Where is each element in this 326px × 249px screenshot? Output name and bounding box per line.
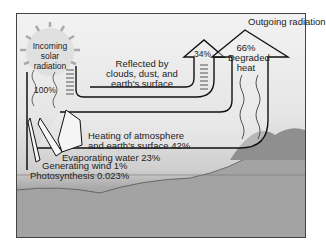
incoming-label: Incomingsolarradiation <box>28 41 72 71</box>
heating-label: Heating of atmosphereand earth's surface… <box>88 131 190 151</box>
incoming-percent: 100% <box>34 85 56 95</box>
photosynthesis-label: Photosynthesis 0.023% <box>30 171 129 181</box>
outgoing-radiation-title: Outgoing radiation <box>248 17 326 27</box>
reflected-label: Reflected byclouds, dust, andearth's sur… <box>102 59 182 89</box>
coil-icon <box>200 65 208 89</box>
degraded-label: 66%Degradedheat <box>228 43 264 73</box>
reflected-percent: 34% <box>194 49 211 59</box>
coil-icon <box>66 70 74 94</box>
